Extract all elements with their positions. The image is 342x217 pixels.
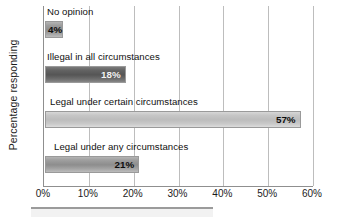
category-label: No opinion bbox=[47, 6, 93, 17]
bar-row: No opinion4% bbox=[44, 6, 313, 51]
x-axis-tick: 60% bbox=[302, 188, 322, 199]
x-axis-tick: 0% bbox=[36, 188, 50, 199]
x-axis-tick: 50% bbox=[257, 188, 277, 199]
x-axis-tick: 40% bbox=[212, 188, 232, 199]
bar-row: Illegal in all circumstances18% bbox=[44, 51, 313, 96]
bar-value-label: 18% bbox=[101, 69, 125, 80]
category-label: Legal under certain circumstances bbox=[50, 96, 198, 107]
category-label: Illegal in all circumstances bbox=[47, 51, 160, 62]
y-axis-title-container: Percentage responding bbox=[0, 0, 26, 190]
bar: 18% bbox=[45, 66, 126, 83]
bar-value-label: 4% bbox=[46, 24, 62, 35]
bottom-band bbox=[31, 207, 213, 217]
plot-area: No opinion4%Illegal in all circumstances… bbox=[43, 6, 313, 186]
x-axis-tick: 10% bbox=[78, 188, 98, 199]
x-axis-tick: 20% bbox=[123, 188, 143, 199]
x-axis-tick: 30% bbox=[167, 188, 187, 199]
bar: 4% bbox=[45, 21, 63, 38]
bar-value-label: 57% bbox=[276, 114, 300, 125]
y-axis-title: Percentage responding bbox=[7, 40, 19, 151]
x-axis-line bbox=[43, 186, 313, 187]
category-label: Legal under any circumstances bbox=[54, 141, 188, 152]
x-axis-tick-labels: 0%10%20%30%40%50%60% bbox=[43, 188, 312, 204]
bar: 57% bbox=[45, 111, 301, 128]
bar-value-label: 21% bbox=[115, 159, 139, 170]
chart-figure: Percentage responding No opinion4%Illega… bbox=[0, 0, 342, 217]
bar-row: Legal under certain circumstances57% bbox=[44, 96, 313, 141]
gridline bbox=[313, 6, 314, 186]
bar: 21% bbox=[45, 156, 139, 173]
bar-row: Legal under any circumstances21% bbox=[44, 141, 313, 186]
